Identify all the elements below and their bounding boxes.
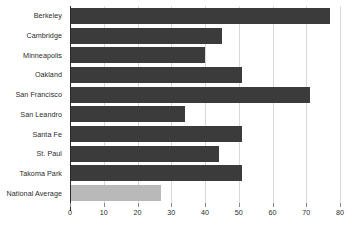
category-label: Oakland [0, 65, 66, 85]
category-label: St. Paul [0, 144, 66, 164]
y-axis-line [70, 6, 71, 211]
x-tick-label: 50 [235, 208, 243, 217]
x-tick-label: 60 [269, 208, 277, 217]
bar-row [70, 26, 340, 46]
x-tick-mark [273, 203, 274, 207]
bar-row [70, 164, 340, 184]
bar [70, 146, 219, 162]
x-tick-label: 0 [68, 208, 72, 217]
category-label: Minneapolis [0, 45, 66, 65]
x-tick-label: 40 [201, 208, 209, 217]
category-label: Berkeley [0, 6, 66, 26]
bar [70, 47, 205, 63]
x-tick-mark [205, 203, 206, 207]
x-tick-label: 30 [167, 208, 175, 217]
bar-row [70, 85, 340, 105]
category-label: San Francisco [0, 85, 66, 105]
category-label: National Average [0, 183, 66, 203]
bar-chart: BerkeleyCambridgeMinneapolisOaklandSan F… [0, 0, 352, 237]
x-axis: 01020304050607080 [70, 203, 340, 233]
bar-row [70, 124, 340, 144]
bar [70, 165, 242, 181]
x-tick-mark [171, 203, 172, 207]
category-label: Santa Fe [0, 124, 66, 144]
bar [70, 185, 161, 201]
bar [70, 8, 330, 24]
x-tick-mark [340, 203, 341, 207]
x-tick-label: 80 [336, 208, 344, 217]
category-label: San Leandro [0, 105, 66, 125]
x-tick-mark [138, 203, 139, 207]
category-label: Cambridge [0, 26, 66, 46]
category-label: Takoma Park [0, 164, 66, 184]
bar-row [70, 65, 340, 85]
bar [70, 106, 185, 122]
x-tick-mark [104, 203, 105, 207]
x-tick-label: 10 [100, 208, 108, 217]
x-tick-label: 20 [134, 208, 142, 217]
gridline [340, 6, 341, 203]
x-tick-mark [239, 203, 240, 207]
bar-row [70, 6, 340, 26]
bar-row [70, 144, 340, 164]
category-axis: BerkeleyCambridgeMinneapolisOaklandSan F… [0, 6, 66, 203]
bar [70, 126, 242, 142]
bar-row [70, 183, 340, 203]
bar-row [70, 45, 340, 65]
bar [70, 67, 242, 83]
bar-row [70, 105, 340, 125]
x-tick-mark [306, 203, 307, 207]
x-tick-mark [70, 203, 71, 207]
bar [70, 87, 310, 103]
bar [70, 28, 222, 44]
plot-area [70, 6, 340, 203]
bar-series [70, 6, 340, 203]
x-tick-label: 70 [302, 208, 310, 217]
